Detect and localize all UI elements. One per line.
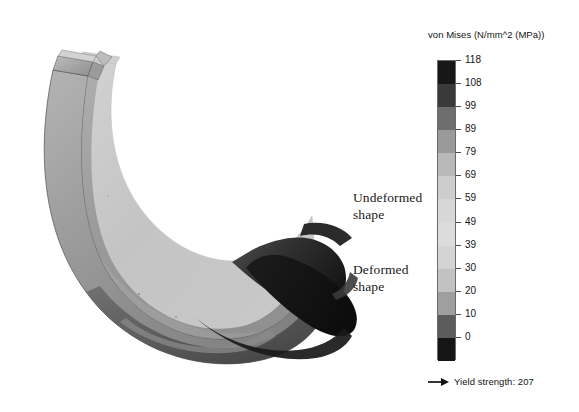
colorbar-value-label: 10 (465, 309, 476, 319)
colorbar-band (438, 61, 455, 84)
colorbar-tick (456, 152, 461, 153)
colorbar-band (438, 292, 455, 315)
colorbar-band (438, 84, 455, 107)
colorbar-value-label: 108 (465, 78, 482, 88)
colorbar-tick (456, 60, 461, 61)
colorbar-value-label: 118 (465, 55, 481, 65)
colorbar-band (438, 338, 455, 361)
colorbar-band (438, 222, 455, 245)
colorbar-value-label: 89 (465, 124, 476, 134)
colorbar-value-label: 69 (465, 170, 476, 180)
colorbar-band (438, 246, 455, 269)
colorbar-tick (456, 175, 461, 176)
yield-strength-label: Yield strength: 207 (454, 376, 534, 387)
colorbar-wrap: 118108998979695949393020100 (437, 60, 456, 360)
colorbar-band (438, 199, 455, 222)
yield-strength-row: Yield strength: 207 (428, 376, 534, 387)
colorbar-value-label: 20 (465, 286, 476, 296)
right-arrow-icon (428, 377, 450, 387)
colorbar-band (438, 130, 455, 153)
colorbar-band (438, 315, 455, 338)
colorbar-tick (456, 222, 461, 223)
colorbar-tick (456, 337, 461, 338)
colorbar-value-label: 99 (465, 101, 476, 111)
colorbar-tick (456, 106, 461, 107)
colorbar-band (438, 176, 455, 199)
deformed-shape-label: Deformed shape (353, 262, 409, 296)
colorbar-band (438, 153, 455, 176)
colorbar-tick (456, 268, 461, 269)
colorbar-band (438, 107, 455, 130)
colorbar-band (438, 269, 455, 292)
colorbar-tick (456, 129, 461, 130)
colorbar-value-label: 0 (465, 332, 471, 342)
colorbar-tick (456, 198, 461, 199)
colorbar-tick (456, 314, 461, 315)
undeformed-shape-label: Undeformed shape (353, 190, 422, 224)
colorbar-value-label: 49 (465, 217, 476, 227)
colorbar-tick (456, 83, 461, 84)
model-viewport: Undeformed shape Deformed shape (0, 0, 420, 412)
colorbar-value-label: 30 (465, 263, 476, 273)
colorbar-tick (456, 291, 461, 292)
stress-colorbar[interactable] (437, 60, 456, 360)
legend-panel: von Mises (N/mm^2 (MPa)) 118108998979695… (420, 0, 579, 412)
legend-title: von Mises (N/mm^2 (MPa)) (428, 29, 545, 40)
colorbar-value-label: 79 (465, 147, 476, 157)
colorbar-value-label: 39 (465, 240, 476, 250)
colorbar-tick (456, 245, 461, 246)
colorbar-value-label: 59 (465, 193, 476, 203)
